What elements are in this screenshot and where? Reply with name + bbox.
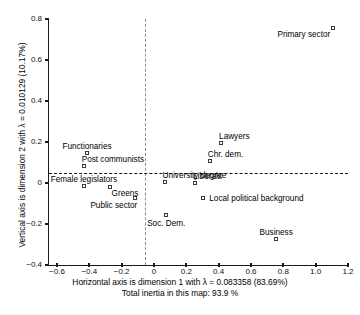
x-axis-title: Horizontal axis is dimension 1 with λ = … [0,277,360,287]
data-point-marker [164,213,168,217]
x-tick-label: 1.2 [336,267,360,276]
data-point-label: Female legislators [51,175,117,184]
vertical-zero-reference-line [145,19,146,265]
data-point-label: Business [260,228,293,237]
x-tick-label: 0.2 [174,267,198,276]
data-point-label: Local political background [209,194,303,203]
data-point-label: Lawyers [219,132,250,141]
data-point-label: Chr. dem. [208,150,244,159]
correspondence-analysis-figure: 0.80.60.40.20−0.2−0.4 −0.6−0.4−0.200.20.… [0,0,360,315]
x-tick-label: 0.8 [271,267,295,276]
data-point-marker [274,237,278,241]
x-tick-label: −0.6 [45,267,69,276]
y-tick [45,59,49,61]
data-point-label: Liberals [193,172,222,181]
total-inertia-label: Total inertia in this map: 93.9 % [0,288,360,298]
data-point-marker [82,184,86,188]
data-point-label: Post communists [82,155,144,164]
x-tick-label: 0 [142,267,166,276]
x-tick-label: 0.4 [207,267,231,276]
data-point-marker [208,159,212,163]
x-tick-label: −0.2 [110,267,134,276]
y-tick [45,141,49,143]
y-axis-title: Vertical axis is dimension 2 with λ = 0.… [17,15,27,275]
data-point-marker [133,196,137,200]
data-point-marker [193,181,197,185]
data-point-marker [201,196,205,200]
y-tick [45,100,49,102]
data-point-label: Functionaries [62,142,111,151]
data-point-label: Primary sector [277,30,330,39]
x-axis-line [48,265,348,266]
y-tick [45,264,49,266]
x-tick-label: 1.0 [304,267,328,276]
y-tick [45,182,49,184]
y-tick [45,18,49,20]
plot-area: 0.80.60.40.20−0.2−0.4 −0.6−0.4−0.200.20.… [0,0,360,315]
data-point-label: Public sector [90,201,137,210]
x-tick-label: −0.4 [77,267,101,276]
data-point-marker [163,180,167,184]
data-point-marker [219,141,223,145]
data-point-label: Soc. Dem. [147,219,185,228]
x-tick-label: 0.6 [239,267,263,276]
data-point-marker [331,26,335,30]
data-point-marker [82,164,86,168]
y-tick [45,223,49,225]
